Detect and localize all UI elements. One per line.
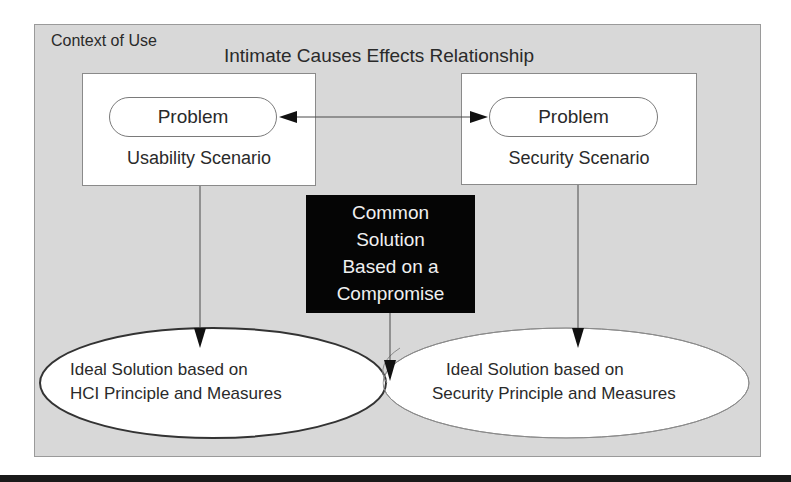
arrowhead-left-icon — [279, 111, 297, 123]
hci-solution-line-1: Ideal Solution based on — [70, 358, 282, 382]
security-solution-line-2: Security Principle and Measures — [432, 382, 676, 406]
hci-solution-line-2: HCI Principle and Measures — [70, 382, 282, 406]
hci-solution-text: Ideal Solution based on HCI Principle an… — [70, 358, 282, 406]
arrowhead-right-icon — [470, 111, 488, 123]
page-divider — [0, 475, 791, 482]
compromise-line-3: Based on a — [306, 253, 475, 280]
security-solution-line-1: Ideal Solution based on — [432, 358, 676, 382]
compromise-line-1: Common — [306, 199, 475, 226]
security-solution-text: Ideal Solution based on Security Princip… — [432, 358, 676, 406]
common-solution-box: Common Solution Based on a Compromise — [306, 195, 475, 313]
compromise-line-2: Solution — [306, 226, 475, 253]
compromise-line-4: Compromise — [306, 280, 475, 307]
